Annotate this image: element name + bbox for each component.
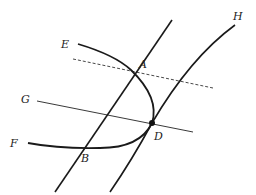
line-G xyxy=(37,101,193,132)
label-G: G xyxy=(21,93,30,106)
diagram-canvas: E A H G F B D xyxy=(0,0,256,195)
label-H: H xyxy=(232,10,243,23)
label-B: B xyxy=(80,152,89,165)
label-E: E xyxy=(60,38,69,51)
curve-H xyxy=(110,25,235,192)
point-D-marker xyxy=(149,120,155,126)
label-F: F xyxy=(9,137,18,150)
label-D: D xyxy=(153,130,163,143)
label-A: A xyxy=(138,58,147,71)
curve-EF xyxy=(28,44,154,148)
line-AB xyxy=(55,20,172,192)
